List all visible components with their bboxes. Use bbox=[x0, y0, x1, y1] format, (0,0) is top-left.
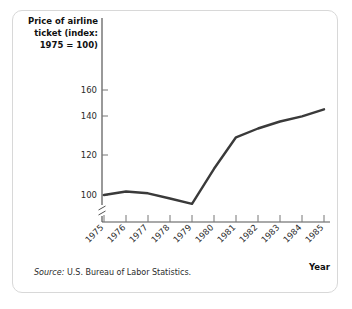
figure-card bbox=[12, 10, 338, 293]
source-note: Source: U.S. Bureau of Labor Statistics. bbox=[34, 268, 191, 277]
source-text: U.S. Bureau of Labor Statistics. bbox=[67, 268, 191, 277]
source-label: Source: bbox=[34, 268, 64, 277]
